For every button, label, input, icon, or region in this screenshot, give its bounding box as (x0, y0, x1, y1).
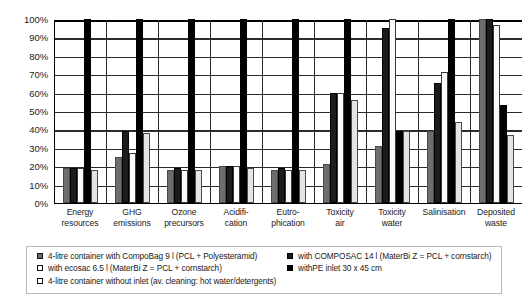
x-axis-label-line: GHG (107, 207, 157, 218)
bar (77, 168, 84, 203)
y-axis-tick-label: 60% (29, 89, 48, 99)
y-axis-tick-label: 100% (24, 15, 48, 25)
bar (136, 19, 143, 203)
legend-label: withPE inlet 30 x 45 cm (298, 263, 382, 273)
bar (292, 19, 299, 203)
y-axis-tick-label: 90% (29, 34, 48, 44)
bar (278, 168, 285, 203)
y-axis-tick-label: 30% (29, 144, 48, 154)
legend-column: withPE inlet 30 x 45 cm (283, 263, 495, 273)
legend-column: with ecosac 6.5 l (MaterBi Z = PCL + cor… (33, 263, 283, 273)
bar (143, 133, 150, 203)
x-axis-category-label: Eutro-phication (262, 207, 314, 237)
bar (434, 83, 441, 203)
x-axis-label-line: Energy (55, 207, 105, 218)
plot-canvas (54, 20, 522, 204)
legend-swatch-icon (37, 278, 43, 284)
legend-label: 4-litre container without inlet (av. cle… (48, 276, 276, 286)
legend-swatch-icon (37, 265, 43, 271)
x-axis-label-line: emissions (107, 218, 157, 229)
bar (115, 157, 122, 203)
bar (441, 72, 448, 203)
x-axis-label-line: cation (211, 218, 261, 229)
bar (448, 19, 455, 203)
bar (233, 166, 240, 203)
bar (195, 170, 202, 203)
bar (403, 131, 410, 203)
y-axis-tick-label: 20% (29, 162, 48, 172)
bar (330, 93, 337, 203)
legend-row: 4-litre container without inlet (av. cle… (33, 276, 495, 288)
x-axis-label-line: precursors (159, 218, 209, 229)
x-axis-label-line: phication (263, 218, 313, 229)
bar (486, 19, 493, 203)
bar (507, 135, 514, 203)
y-axis-tick-label: 0% (34, 199, 48, 209)
y-axis-tick-label: 70% (29, 70, 48, 80)
y-axis-tick-label: 50% (29, 107, 48, 117)
x-axis-category-label: Toxicityair (314, 207, 366, 237)
bar-group (315, 20, 367, 203)
x-axis-label-line: water (367, 218, 417, 229)
x-axis-label-line: Deposited (471, 207, 521, 218)
chart-legend: 4-litre container with CompoBag 9 l (PCL… (26, 246, 502, 294)
bar (167, 170, 174, 203)
legend-column: with COMPOSAC 14 l (MaterBi Z = PCL + co… (283, 251, 495, 261)
bar (84, 19, 91, 203)
chart-plot-area: 0%10%20%30%40%50%60%70%80%90%100% Energy… (0, 0, 528, 240)
x-axis-label-line: Salinisation (419, 207, 469, 218)
bar (188, 19, 195, 203)
bar (382, 28, 389, 203)
bar (129, 153, 136, 203)
x-axis-category-label: Energyresources (54, 207, 106, 237)
x-axis-category-label: Toxicitywater (366, 207, 418, 237)
legend-swatch-icon (287, 265, 293, 271)
chart-figure: 0%10%20%30%40%50%60%70%80%90%100% Energy… (0, 0, 528, 303)
bar (337, 93, 344, 203)
x-axis-label-line: Acidifi- (211, 207, 261, 218)
y-axis-tick-label: 10% (29, 181, 48, 191)
x-axis-label-line: resources (55, 218, 105, 229)
bar-group (263, 20, 315, 203)
x-axis-label-line: Ozone (159, 207, 209, 218)
bar (493, 25, 500, 203)
legend-row: with ecosac 6.5 l (MaterBi Z = PCL + cor… (33, 263, 495, 275)
bar (63, 168, 70, 203)
bar (299, 170, 306, 203)
bar-group (367, 20, 419, 203)
bar (226, 166, 233, 203)
bar (427, 131, 434, 203)
bar (479, 19, 486, 203)
x-axis-category-labels: EnergyresourcesGHGemissionsOzoneprecurso… (54, 207, 522, 237)
bar-group (107, 20, 159, 203)
bar (389, 19, 396, 203)
bar (351, 100, 358, 203)
bar (174, 168, 181, 203)
bar (247, 168, 254, 203)
x-axis-category-label: Ozoneprecursors (158, 207, 210, 237)
legend-swatch-icon (37, 253, 43, 259)
y-axis-tick-label: 40% (29, 126, 48, 136)
bar-groups (55, 20, 522, 203)
legend-column: 4-litre container without inlet (av. cle… (33, 276, 283, 286)
y-axis-tick-labels: 0%10%20%30%40%50%60%70%80%90%100% (0, 14, 52, 204)
y-axis-tick-label: 80% (29, 52, 48, 62)
x-axis-category-label: Depositedwaste (470, 207, 522, 237)
legend-label: 4-litre container with CompoBag 9 l (PCL… (48, 251, 257, 261)
bar (181, 170, 188, 203)
legend-column: 4-litre container with CompoBag 9 l (PCL… (33, 251, 283, 261)
legend-label: with ecosac 6.5 l (MaterBi Z = PCL + cor… (48, 263, 222, 273)
bar-group (55, 20, 107, 203)
x-axis-label-line: Toxicity (315, 207, 365, 218)
legend-label: with COMPOSAC 14 l (MaterBi Z = PCL + co… (298, 251, 492, 261)
bar (500, 105, 507, 203)
x-axis-label-line: waste (471, 218, 521, 229)
bar (285, 170, 292, 203)
bar (396, 131, 403, 203)
bar-group (159, 20, 211, 203)
bar-group (211, 20, 263, 203)
bar (219, 166, 226, 203)
bar (70, 168, 77, 203)
x-axis-label-line: Toxicity (367, 207, 417, 218)
legend-swatch-icon (287, 253, 293, 259)
